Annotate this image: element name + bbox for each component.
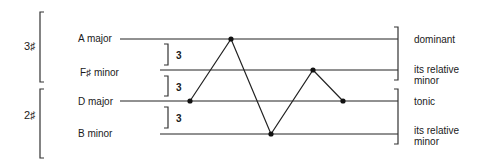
interval-label-2: 3 [176,82,182,93]
key-signature-3-sharps: 3♯ [24,40,36,52]
key-label-b-minor: B minor [78,128,112,139]
interval-label-1: 3 [176,50,182,61]
bracket-2-sharps [40,89,44,158]
path-dot [187,98,192,103]
interval-label-3: 3 [176,113,182,124]
key-label-a-major: A major [78,33,112,44]
bracket-dominant [394,27,398,80]
key-label-d-major: D major [78,96,113,107]
role-relative-minor-1-line1: its relative [414,64,459,75]
role-relative-minor-1: its relative minor [414,64,459,86]
role-tonic: tonic [414,96,435,107]
role-relative-minor-1-line2: minor [414,75,459,86]
role-relative-minor-2-line1: its relative [414,125,459,136]
path-dot [228,36,233,41]
interval-bracket-2 [164,76,168,96]
key-signature-2-sharps: 2♯ [24,109,36,121]
role-dominant: dominant [414,34,455,45]
key-label-f-sharp-minor: F♯ minor [80,67,119,78]
path-dot [340,98,345,103]
modulation-diagram [0,0,484,162]
bracket-tonic [394,89,398,144]
interval-bracket-3 [164,107,168,128]
path-dot [268,131,273,136]
path-dot [310,67,315,72]
role-relative-minor-2-line2: minor [414,136,459,147]
role-relative-minor-2: its relative minor [414,125,459,147]
modulation-path [190,39,343,134]
bracket-3-sharps [40,12,44,82]
interval-bracket-1 [164,44,168,65]
